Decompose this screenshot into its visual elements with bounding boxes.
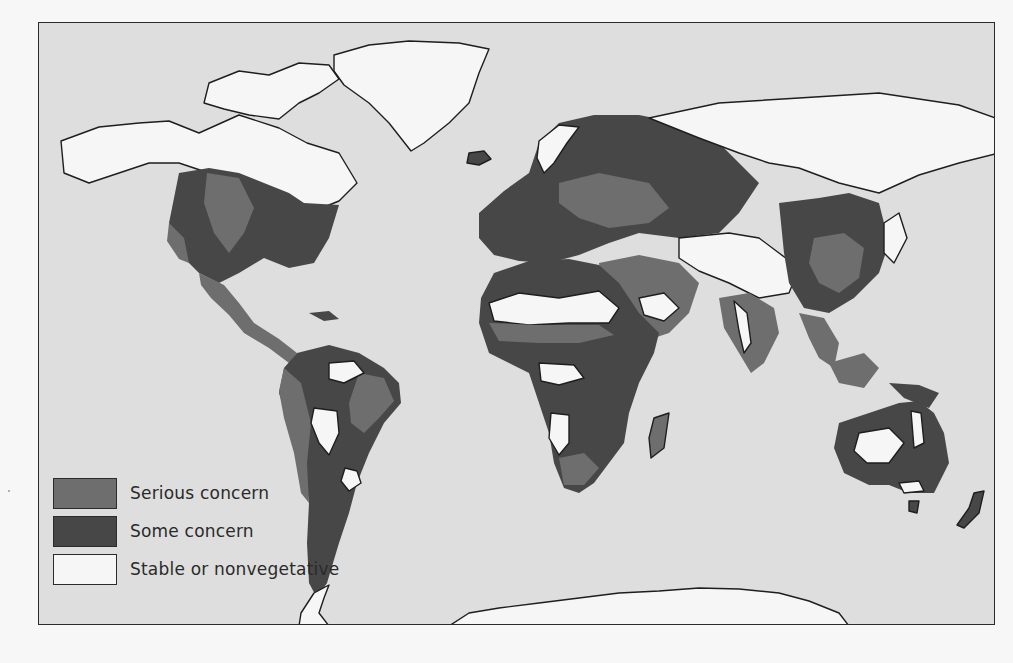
legend-label-stable: Stable or nonvegetative [130,559,339,579]
region-australia-south-stable [899,481,924,493]
legend-item-stable: Stable or nonvegetative [53,550,339,588]
stray-dot [8,490,10,492]
legend-label-serious: Serious concern [130,483,269,503]
legend-swatch-stable [53,554,117,585]
legend-swatch-some [53,516,117,547]
world-map: Serious concern Some concern Stable or n… [38,22,995,625]
region-tasmania [909,501,919,513]
legend-swatch-serious [53,478,117,509]
legend-label-some: Some concern [130,521,254,541]
legend-item-some: Some concern [53,512,339,550]
legend-item-serious: Serious concern [53,474,339,512]
region-australia-east-stable [911,411,924,448]
legend: Serious concern Some concern Stable or n… [53,474,339,588]
